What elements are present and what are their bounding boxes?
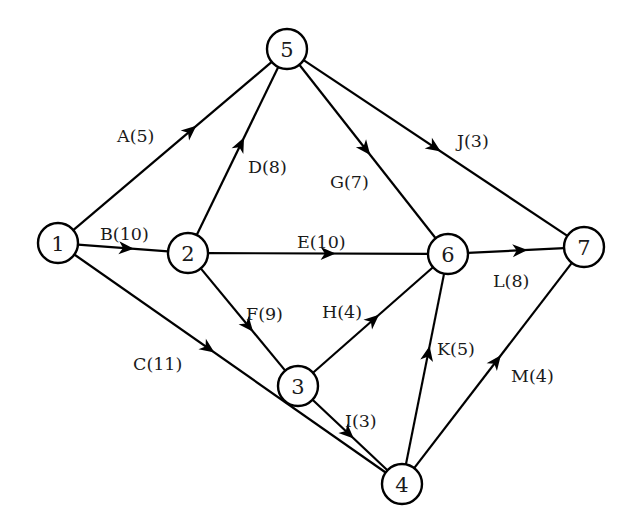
edge-label-l: L(8) — [493, 271, 529, 291]
arrowhead-icon — [356, 139, 370, 155]
edge-label-f: F(9) — [246, 304, 283, 324]
node-label: 4 — [395, 473, 408, 497]
node-4: 4 — [382, 464, 422, 504]
edge-line — [208, 253, 428, 254]
edge-label-e: E(10) — [297, 232, 346, 252]
nodes-layer: 1234567 — [38, 29, 604, 504]
edge-label-k: K(5) — [437, 339, 475, 359]
edges-layer — [73, 60, 572, 472]
node-label: 6 — [441, 243, 454, 267]
edge-label-d: D(8) — [248, 157, 287, 177]
node-1: 1 — [38, 223, 78, 263]
edge-label-m: M(4) — [511, 366, 554, 386]
node-label: 3 — [291, 375, 304, 399]
edge-label-c: C(11) — [133, 354, 182, 374]
edge-label-a: A(5) — [116, 126, 154, 146]
edge-label-b: B(10) — [100, 224, 149, 244]
edge-j — [304, 60, 568, 236]
node-label: 1 — [51, 232, 64, 256]
edge-line — [74, 254, 385, 472]
edge-g — [299, 65, 435, 239]
edge-labels-layer: A(5)B(10)C(11)D(8)E(10)F(9)G(7)H(4)I(3)J… — [100, 126, 554, 431]
edge-label-h: H(4) — [322, 302, 362, 322]
node-label: 7 — [577, 236, 590, 260]
arrowhead-icon — [425, 138, 441, 152]
network-diagram: 1234567 A(5)B(10)C(11)D(8)E(10)F(9)G(7)H… — [0, 0, 627, 529]
arrowhead-icon — [487, 355, 501, 371]
node-6: 6 — [428, 234, 468, 274]
edge-label-j: J(3) — [455, 131, 489, 151]
node-label: 2 — [181, 242, 194, 266]
node-3: 3 — [278, 366, 318, 406]
node-7: 7 — [564, 227, 604, 267]
edge-label-g: G(7) — [330, 172, 369, 192]
edge-c — [74, 254, 385, 472]
arrowhead-icon — [198, 339, 214, 353]
edge-l — [468, 244, 564, 257]
node-label: 5 — [280, 38, 293, 62]
edge-label-i: I(3) — [345, 411, 377, 431]
node-2: 2 — [168, 233, 208, 273]
node-5: 5 — [267, 29, 307, 69]
